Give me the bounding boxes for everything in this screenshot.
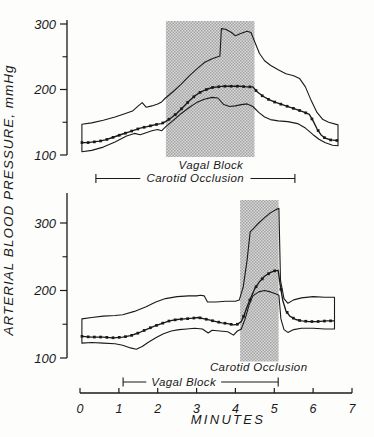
x-tick-label-6: 6 bbox=[310, 402, 317, 416]
x-tick-label-1: 1 bbox=[115, 402, 122, 416]
data-point-marker bbox=[180, 107, 183, 110]
y-tick-label-200: 200 bbox=[33, 283, 56, 298]
data-point-marker bbox=[199, 317, 202, 320]
bottom-pressure-envelope bbox=[82, 208, 335, 349]
data-point-marker bbox=[193, 317, 196, 320]
data-point-marker bbox=[81, 335, 84, 338]
data-point-marker bbox=[99, 336, 102, 339]
data-point-marker bbox=[168, 320, 171, 323]
data-point-marker bbox=[261, 94, 264, 97]
data-point-marker bbox=[186, 317, 189, 320]
data-point-marker bbox=[161, 122, 164, 125]
data-point-marker bbox=[329, 320, 332, 323]
data-point-marker bbox=[124, 132, 127, 135]
data-point-marker bbox=[236, 323, 239, 326]
vagal-block-region-label: Vagal Block bbox=[179, 159, 245, 171]
data-point-marker bbox=[149, 125, 152, 128]
bottom-panel: 100200300Carotid OcclusionVagal Block bbox=[33, 193, 334, 389]
data-point-marker bbox=[118, 336, 121, 339]
data-point-marker bbox=[106, 336, 109, 339]
data-point-marker bbox=[286, 105, 289, 108]
data-point-marker bbox=[224, 322, 227, 325]
data-point-marker bbox=[180, 318, 183, 321]
data-point-marker bbox=[280, 103, 283, 106]
data-point-marker bbox=[174, 113, 177, 116]
top-panel: 100200300Vagal BlockCarotid Occlusion bbox=[33, 17, 338, 186]
data-point-marker bbox=[304, 320, 307, 323]
data-point-marker bbox=[193, 95, 196, 98]
data-point-marker bbox=[224, 85, 227, 88]
data-point-marker bbox=[205, 88, 208, 91]
data-point-marker bbox=[261, 278, 264, 281]
carotid-occlusion-bracket-label: Carotid Occlusion bbox=[147, 172, 245, 184]
vagal-block-bracket-label: Vagal Block bbox=[151, 376, 217, 388]
data-point-marker bbox=[87, 336, 90, 339]
y-axis-label: ARTERIAL BLOOD PRESSURE, mmHg bbox=[1, 65, 16, 337]
data-point-marker bbox=[155, 123, 158, 126]
y-tick-label-200: 200 bbox=[33, 82, 56, 97]
data-point-marker bbox=[242, 315, 245, 318]
dual-panel-pressure-chart: 100200300Vagal BlockCarotid Occlusion100… bbox=[0, 0, 374, 437]
data-point-marker bbox=[267, 272, 270, 275]
data-point-marker bbox=[323, 320, 326, 323]
data-point-marker bbox=[155, 324, 158, 327]
data-point-marker bbox=[106, 138, 109, 141]
data-point-marker bbox=[81, 141, 84, 144]
data-point-marker bbox=[205, 318, 208, 321]
y-tick-label-300: 300 bbox=[34, 17, 56, 32]
data-point-marker bbox=[211, 319, 214, 322]
data-point-marker bbox=[118, 134, 121, 137]
data-point-marker bbox=[230, 85, 233, 88]
data-point-marker bbox=[286, 311, 289, 314]
x-tick-label-5: 5 bbox=[271, 402, 278, 416]
x-tick-label-7: 7 bbox=[349, 402, 357, 416]
bottom-mean-arterial-pressure-markers bbox=[81, 270, 332, 340]
data-point-marker bbox=[168, 118, 171, 121]
data-point-marker bbox=[273, 101, 276, 104]
y-tick-label-100: 100 bbox=[34, 148, 56, 163]
data-point-marker bbox=[255, 89, 258, 92]
data-point-marker bbox=[267, 98, 270, 101]
data-point-marker bbox=[242, 85, 245, 88]
data-point-marker bbox=[199, 91, 202, 94]
data-point-marker bbox=[130, 130, 133, 133]
carotid-occlusion-region-label: Carotid Occlusion bbox=[210, 361, 308, 373]
data-point-marker bbox=[137, 128, 140, 131]
data-point-marker bbox=[329, 139, 332, 142]
data-point-marker bbox=[311, 320, 314, 323]
data-point-marker bbox=[174, 319, 177, 322]
data-point-marker bbox=[124, 335, 127, 338]
data-point-marker bbox=[161, 322, 164, 325]
y-tick-label-100: 100 bbox=[34, 351, 56, 366]
data-point-marker bbox=[186, 101, 189, 104]
data-point-marker bbox=[112, 336, 115, 339]
x-tick-label-0: 0 bbox=[77, 402, 84, 416]
data-point-marker bbox=[143, 126, 146, 129]
data-point-marker bbox=[249, 299, 252, 302]
data-point-marker bbox=[137, 332, 140, 335]
data-point-marker bbox=[336, 139, 339, 142]
data-point-marker bbox=[304, 112, 307, 115]
data-point-marker bbox=[292, 317, 295, 320]
data-point-marker bbox=[149, 326, 152, 329]
data-point-marker bbox=[217, 321, 220, 324]
data-point-marker bbox=[236, 85, 239, 88]
data-point-marker bbox=[249, 86, 252, 89]
data-point-marker bbox=[292, 107, 295, 110]
data-point-marker bbox=[317, 129, 320, 132]
carotid-occlusion-shaded-region bbox=[240, 200, 279, 362]
data-point-marker bbox=[87, 141, 90, 144]
vagal-block-bracket: Vagal Block bbox=[123, 376, 278, 389]
data-point-marker bbox=[93, 336, 96, 339]
data-point-marker bbox=[298, 319, 301, 322]
data-point-marker bbox=[317, 320, 320, 323]
data-point-marker bbox=[130, 334, 133, 337]
y-tick-label-300: 300 bbox=[34, 216, 56, 231]
data-point-marker bbox=[230, 323, 233, 326]
data-point-marker bbox=[298, 109, 301, 112]
data-point-marker bbox=[255, 285, 258, 288]
arterial-blood-pressure-figure: 100200300Vagal BlockCarotid Occlusion100… bbox=[0, 0, 374, 437]
data-point-marker bbox=[323, 136, 326, 139]
bottom-mean-arterial-pressure-line bbox=[82, 270, 335, 338]
data-point-marker bbox=[93, 141, 96, 144]
